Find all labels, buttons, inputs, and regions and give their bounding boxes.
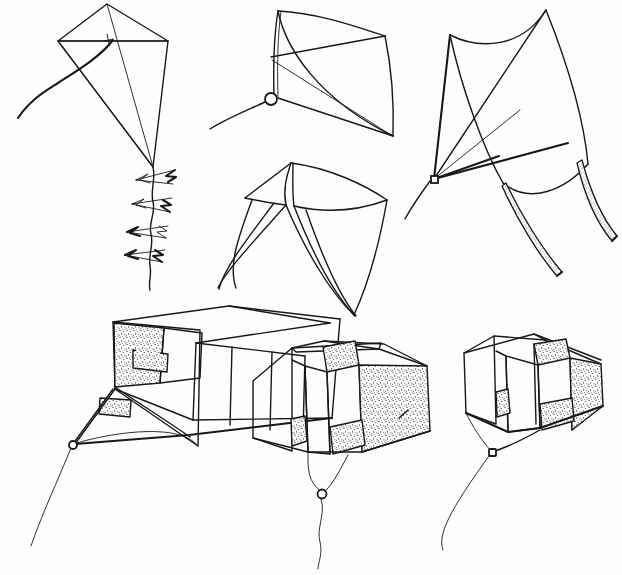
sled-bridle-ring bbox=[265, 93, 277, 105]
bowed-bridle-ring bbox=[431, 176, 438, 183]
kite-plate-svg bbox=[0, 0, 622, 575]
boxkite-med-bridle-ring bbox=[318, 490, 327, 499]
boxkite-large-bridle-ring bbox=[69, 441, 77, 449]
illustration-page: Kite construction plate Diamond kite wit… bbox=[0, 0, 622, 575]
boxkite-large-panel-stipple-2b bbox=[136, 346, 160, 367]
boxkite-right-bridle-ring bbox=[489, 449, 496, 456]
page-background bbox=[0, 0, 622, 575]
